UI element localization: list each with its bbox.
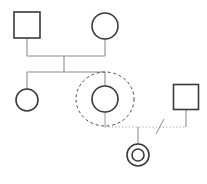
person-node-index-person-circle[interactable] xyxy=(92,86,118,112)
genogram-svg xyxy=(0,0,207,184)
person-node-child-double-circle[interactable] xyxy=(127,144,149,166)
sibship-bar-gen2 xyxy=(27,56,105,89)
person-node-father-square[interactable] xyxy=(14,12,40,38)
marriage-union-gen1 xyxy=(27,38,105,56)
genogram-canvas xyxy=(0,0,207,184)
partnership-index-partner xyxy=(105,110,186,134)
child-inner-circle xyxy=(132,149,144,161)
person-node-mother-circle[interactable] xyxy=(92,13,118,39)
person-node-daughter-one-circle[interactable] xyxy=(16,89,38,111)
person-node-partner-male-square[interactable] xyxy=(174,85,199,110)
